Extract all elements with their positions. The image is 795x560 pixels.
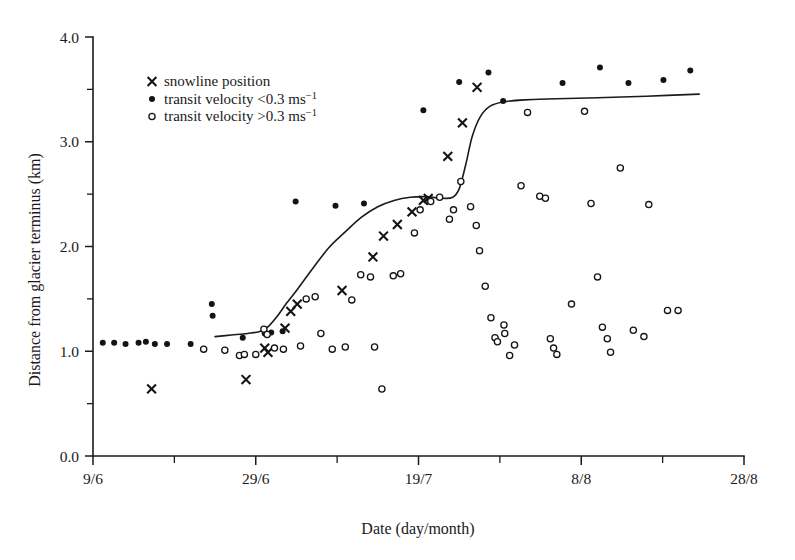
data-point bbox=[280, 346, 286, 352]
data-point bbox=[293, 300, 302, 309]
series-2 bbox=[201, 108, 682, 392]
data-point bbox=[242, 375, 251, 384]
data-point bbox=[604, 336, 610, 342]
data-point bbox=[143, 339, 149, 345]
data-point bbox=[100, 340, 106, 346]
data-point bbox=[456, 79, 462, 85]
series-0 bbox=[147, 83, 481, 393]
trend-line bbox=[215, 94, 699, 337]
legend-superscript: −1 bbox=[306, 107, 317, 118]
data-point bbox=[641, 333, 647, 339]
data-point bbox=[332, 203, 338, 209]
data-point bbox=[210, 313, 216, 319]
legend-marker-cross bbox=[148, 77, 157, 86]
data-point bbox=[518, 183, 524, 189]
legend-label: transit velocity >0.3 ms−1 bbox=[164, 107, 317, 124]
legend-label: transit velocity <0.3 ms−1 bbox=[164, 90, 317, 107]
x-tick-label: 29/6 bbox=[242, 470, 270, 487]
data-point bbox=[588, 200, 594, 206]
legend: snowline positiontransit velocity <0.3 m… bbox=[148, 73, 317, 124]
data-point bbox=[607, 349, 613, 355]
data-point bbox=[482, 283, 488, 289]
data-point bbox=[240, 335, 246, 341]
data-point bbox=[443, 152, 452, 161]
data-point bbox=[547, 336, 553, 342]
y-tick-label: 4.0 bbox=[60, 29, 80, 46]
data-point bbox=[500, 98, 506, 104]
data-point bbox=[599, 324, 605, 330]
data-point bbox=[664, 307, 670, 313]
data-point bbox=[201, 346, 207, 352]
data-point bbox=[446, 216, 452, 222]
data-point bbox=[390, 273, 396, 279]
data-point bbox=[188, 341, 194, 347]
data-point bbox=[437, 194, 443, 200]
data-point bbox=[488, 315, 494, 321]
data-point bbox=[342, 344, 348, 350]
data-point bbox=[358, 272, 364, 278]
data-point bbox=[494, 339, 500, 345]
data-point bbox=[367, 274, 373, 280]
data-point bbox=[397, 271, 403, 277]
data-point bbox=[420, 107, 426, 113]
data-point bbox=[209, 301, 215, 307]
data-point bbox=[467, 204, 473, 210]
data-point bbox=[458, 118, 467, 127]
data-point bbox=[660, 77, 666, 83]
data-point bbox=[473, 83, 482, 92]
y-tick-label: 1.0 bbox=[60, 343, 80, 360]
data-point bbox=[338, 286, 347, 295]
trend-line-path bbox=[215, 94, 699, 337]
legend-marker-open-circle bbox=[149, 113, 155, 119]
data-point bbox=[502, 330, 508, 336]
data-point bbox=[293, 198, 299, 204]
data-point bbox=[450, 207, 456, 213]
y-axis-title: Distance from glacier terminus (km) bbox=[26, 153, 44, 387]
data-point bbox=[524, 109, 530, 115]
data-point bbox=[123, 341, 129, 347]
data-point bbox=[312, 294, 318, 300]
data-point bbox=[147, 385, 156, 394]
data-point bbox=[379, 386, 385, 392]
data-point bbox=[594, 274, 600, 280]
data-point bbox=[458, 178, 464, 184]
legend-marker-filled-circle bbox=[149, 96, 155, 102]
data-point bbox=[568, 301, 574, 307]
y-tick-label: 2.0 bbox=[60, 238, 80, 255]
data-point bbox=[485, 70, 491, 76]
data-point bbox=[417, 207, 423, 213]
figure-container: 9/629/619/78/828/8 0.01.02.03.04.0 snowl… bbox=[0, 0, 795, 560]
data-point bbox=[241, 351, 247, 357]
data-point bbox=[625, 80, 631, 86]
data-point bbox=[371, 344, 377, 350]
data-point bbox=[501, 322, 507, 328]
data-point bbox=[379, 232, 388, 241]
data-point bbox=[428, 198, 434, 204]
data-point bbox=[361, 201, 367, 207]
data-point bbox=[136, 340, 142, 346]
data-point bbox=[554, 351, 560, 357]
data-point bbox=[476, 248, 482, 254]
data-point bbox=[253, 351, 259, 357]
data-point bbox=[581, 108, 587, 114]
data-point bbox=[675, 307, 681, 313]
x-axis-title: Date (day/month) bbox=[361, 520, 474, 538]
data-point bbox=[646, 202, 652, 208]
legend-superscript: −1 bbox=[306, 90, 317, 101]
data-point bbox=[630, 327, 636, 333]
data-point bbox=[264, 331, 270, 337]
data-point bbox=[329, 346, 335, 352]
y-tick-label: 3.0 bbox=[60, 133, 80, 150]
x-tick-labels: 9/629/619/78/828/8 bbox=[83, 470, 758, 487]
y-tick-label: 0.0 bbox=[60, 448, 80, 465]
data-point bbox=[349, 297, 355, 303]
y-tick-labels: 0.01.02.03.04.0 bbox=[60, 29, 80, 465]
x-tick-label: 8/8 bbox=[571, 470, 591, 487]
x-tick-label: 9/6 bbox=[83, 470, 103, 487]
data-point bbox=[393, 220, 402, 229]
x-tick-label: 28/8 bbox=[730, 470, 758, 487]
data-point bbox=[597, 64, 603, 70]
data-point bbox=[271, 345, 277, 351]
series-1 bbox=[100, 64, 694, 347]
data-point bbox=[111, 340, 117, 346]
